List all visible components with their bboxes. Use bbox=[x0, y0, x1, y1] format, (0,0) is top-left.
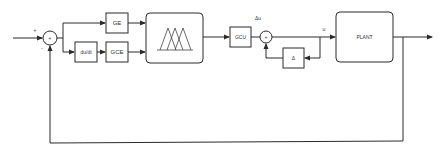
derivative-block: du/dt bbox=[75, 42, 97, 62]
fuzzy-inference-block bbox=[146, 13, 203, 63]
junction1-plus-sign: + bbox=[34, 27, 37, 33]
gcu-label: GCU bbox=[235, 34, 247, 40]
delay-block: Δ bbox=[283, 48, 304, 68]
block-diagram: + + - GE du/dt GCE bbox=[0, 0, 443, 154]
u-label: u bbox=[323, 26, 326, 32]
summing-junction-integrator: + bbox=[260, 31, 272, 43]
plant-block: PLANT bbox=[336, 12, 393, 62]
junction1-minus-sign: - bbox=[41, 45, 43, 51]
junction1-center-sign: + bbox=[49, 35, 52, 41]
summing-junction-error: + + - bbox=[34, 27, 57, 51]
junction2-center-sign: + bbox=[265, 34, 268, 40]
gce-gain-block: GCE bbox=[106, 42, 128, 62]
delta-u-label: Δu bbox=[255, 15, 261, 21]
plant-label: PLANT bbox=[356, 34, 372, 40]
ge-gain-block: GE bbox=[106, 13, 128, 33]
ge-label: GE bbox=[113, 20, 122, 26]
gce-label: GCE bbox=[110, 49, 123, 55]
derivative-label: du/dt bbox=[80, 49, 92, 55]
gcu-gain-block: GCU bbox=[230, 27, 251, 47]
